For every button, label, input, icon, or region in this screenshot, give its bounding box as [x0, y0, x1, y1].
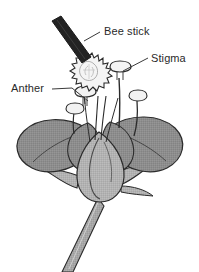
stalk-left-head — [66, 103, 84, 114]
label-anther: Anther — [11, 82, 44, 94]
label-stigma: Stigma — [151, 52, 187, 64]
label-bee-stick: Bee stick — [104, 25, 150, 37]
stigma-head — [110, 61, 131, 72]
stalk-right-head — [129, 90, 147, 101]
flower-diagram: Bee stick Stigma Anther — [0, 0, 199, 272]
